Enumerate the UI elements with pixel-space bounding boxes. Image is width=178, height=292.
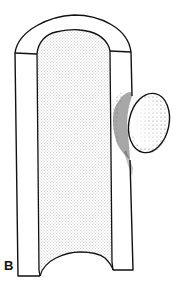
- reactive-zone: [113, 91, 133, 176]
- lumen: [37, 30, 113, 276]
- diagram-figure: [0, 0, 178, 292]
- oval-mass: [123, 89, 175, 156]
- panel-label: B: [4, 259, 13, 272]
